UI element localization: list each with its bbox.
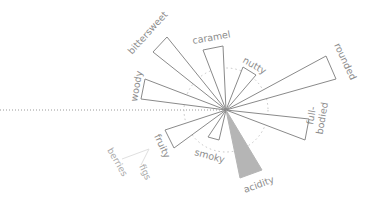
flavor-radial-chart: bittersweetcaramelnuttyroundedfull-bodie… [0,0,371,203]
label-rounded: rounded [332,41,359,81]
label-acidity: acidity [242,174,276,195]
sublabel-figs: figs [137,163,153,182]
label-caramel: caramel [191,28,231,46]
label-smoky: smoky [193,146,226,165]
sublabel-berries: berries [105,146,129,178]
